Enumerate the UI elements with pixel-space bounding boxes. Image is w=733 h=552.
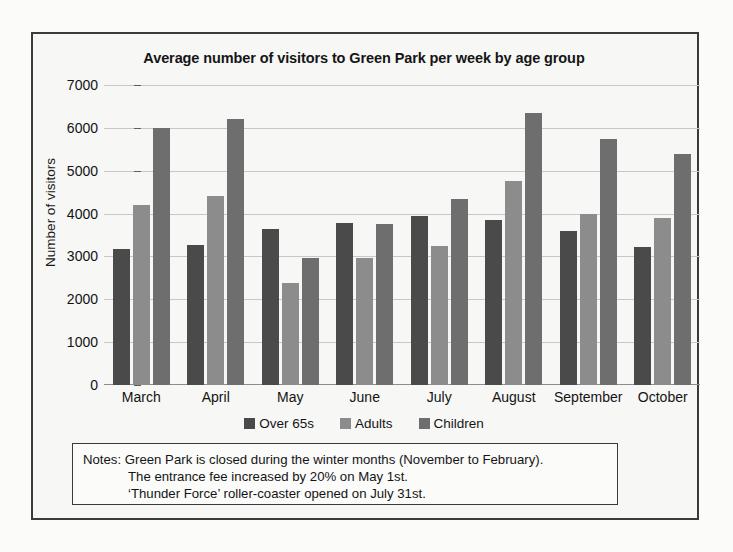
y-tick-label: 1000: [38, 334, 98, 350]
bar: [580, 214, 597, 385]
legend-label: Over 65s: [259, 416, 314, 431]
bar: [674, 154, 691, 385]
bar: [411, 216, 428, 385]
bar: [336, 223, 353, 385]
legend-swatch-icon: [340, 418, 351, 429]
x-axis-label: March: [104, 389, 179, 405]
bar: [451, 199, 468, 385]
notes-line-1: Notes: Green Park is closed during the w…: [83, 451, 607, 468]
bar: [153, 128, 170, 385]
x-axis-label: August: [477, 389, 552, 405]
bar: [282, 283, 299, 385]
y-tick-label: 7000: [38, 77, 98, 93]
notes-line-3: ‘Thunder Force’ roller-coaster opened on…: [83, 485, 607, 502]
notes-text-1: Green Park is closed during the winter m…: [125, 452, 544, 467]
bar-group: [402, 85, 477, 385]
bar-group: [626, 85, 701, 385]
bar-group: [104, 85, 179, 385]
page-root: Average number of visitors to Green Park…: [0, 0, 733, 552]
bar: [227, 119, 244, 385]
x-axis-label: April: [179, 389, 254, 405]
bar: [356, 258, 373, 385]
y-tick-label: 4000: [38, 206, 98, 222]
bar: [600, 139, 617, 385]
bar: [525, 113, 542, 385]
y-tick-label: 0: [38, 377, 98, 393]
chart-legend: Over 65sAdultsChildren: [104, 416, 624, 431]
legend-item[interactable]: Children: [419, 416, 484, 431]
bar: [262, 229, 279, 385]
y-tick-label: 2000: [38, 291, 98, 307]
notes-label: Notes:: [83, 452, 121, 467]
bar: [560, 231, 577, 385]
bar: [376, 224, 393, 385]
bar-group: [179, 85, 254, 385]
x-axis-label: June: [328, 389, 403, 405]
bar: [505, 181, 522, 385]
chart-title: Average number of visitors to Green Park…: [64, 50, 664, 66]
legend-item[interactable]: Over 65s: [244, 416, 314, 431]
bar: [654, 218, 671, 385]
bar: [187, 245, 204, 385]
bar-group: [551, 85, 626, 385]
bar-group: [328, 85, 403, 385]
legend-label: Children: [434, 416, 484, 431]
legend-label: Adults: [355, 416, 393, 431]
bar: [207, 196, 224, 385]
y-tick-label: 5000: [38, 163, 98, 179]
x-axis-label: October: [626, 389, 701, 405]
legend-swatch-icon: [244, 418, 255, 429]
legend-swatch-icon: [419, 418, 430, 429]
x-axis-label: September: [551, 389, 626, 405]
x-axis-labels: MarchAprilMayJuneJulyAugustSeptemberOcto…: [104, 389, 700, 405]
notes-line-2: The entrance fee increased by 20% on May…: [83, 468, 607, 485]
y-tick-label: 3000: [38, 248, 98, 264]
bar: [634, 247, 651, 385]
bar: [113, 249, 130, 385]
y-axis-ticks: 01000200030004000500060007000: [36, 85, 98, 385]
bar-groups: [104, 85, 700, 385]
x-axis-label: May: [253, 389, 328, 405]
notes-box: Notes: Green Park is closed during the w…: [72, 443, 618, 505]
bar: [302, 258, 319, 385]
y-tick-label: 6000: [38, 120, 98, 136]
legend-item[interactable]: Adults: [340, 416, 393, 431]
bar-group: [253, 85, 328, 385]
bar-group: [477, 85, 552, 385]
bar: [485, 220, 502, 385]
bar: [431, 246, 448, 385]
bar: [133, 205, 150, 385]
y-tick-mark: [134, 385, 141, 386]
x-axis-label: July: [402, 389, 477, 405]
